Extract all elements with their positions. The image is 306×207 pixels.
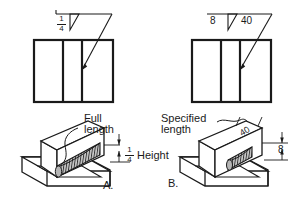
height-dim-value-b: 8 [278,145,284,156]
panel-b-id-label: B. [168,178,178,190]
front-view-outline-a [34,40,113,102]
weld-size-fraction-a: 1 4 [57,15,66,33]
height-denominator-a: 4 [125,156,134,164]
full-length-note-line2-a: length [84,124,114,136]
height-fraction-a: 1 4 [125,146,134,164]
height-arrow-upper-a [117,140,121,145]
weld-length-value-b: 40 [241,16,252,27]
weld-bead-end-b [227,160,233,170]
weld-size-denominator-a: 4 [57,25,66,33]
specified-length-note-line2-b: length [161,124,191,136]
weld-size-numerator-a: 1 [57,15,66,23]
panel-b-front-view [192,40,271,102]
drawing-canvas [0,0,306,207]
fillet-triangle-icon-a [70,14,79,30]
height-label-a: Height [137,150,169,162]
height-numerator-a: 1 [125,146,134,154]
weld-bead-end-a [55,166,61,177]
weld-size-value-b: 8 [210,16,216,27]
welding-symbol-figure: 1 4 8 40 Full length 1 4 Height A. Speci… [0,0,306,207]
height-arrow-upper-b [280,138,284,143]
panel-a-id-label: A. [103,180,113,192]
panel-b-isometric [180,117,288,186]
front-view-outline-b [192,40,271,102]
fillet-triangle-icon-b [228,14,237,30]
height-arrow-lower-a [117,151,121,156]
length-dim-tick-right-b [258,117,262,126]
panel-a-front-view [34,40,113,102]
